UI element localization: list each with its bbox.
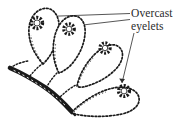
leader-to-petal-1-eyelet — [46, 14, 130, 17]
stem-branch-to-petal-2 — [46, 72, 58, 88]
eyelet-petal-2-hole — [66, 26, 72, 32]
petal-3-outline — [77, 45, 122, 87]
callout-label-line-1: Overcast — [131, 7, 173, 19]
leader-arrowhead-icon — [119, 78, 125, 83]
petal-3 — [77, 45, 122, 87]
eyelet-petal-3 — [100, 43, 110, 53]
leader-to-petal-2-eyelet — [79, 20, 131, 26]
eyelet-petal-3-hole — [102, 45, 107, 50]
eyelet-petal-4-hole — [121, 88, 127, 94]
stem-main-stroke — [10, 68, 72, 112]
stem-branch-to-petal-1 — [30, 64, 42, 76]
stem-branch-to-petal-3 — [58, 85, 76, 99]
eyelet-petal-1-hole — [34, 20, 40, 26]
leader-to-petal-4-eyelet — [122, 33, 134, 83]
illustration-page: Overcast eyelets — [0, 0, 178, 121]
callout-label-line-2: eyelets — [131, 20, 164, 32]
